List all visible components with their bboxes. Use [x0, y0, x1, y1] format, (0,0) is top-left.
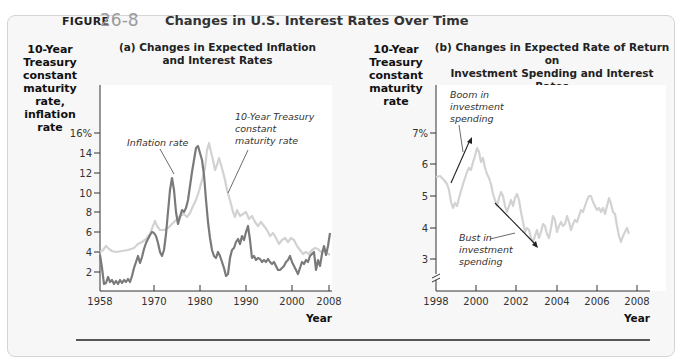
bust-label-line3: spending	[459, 256, 503, 267]
svg-text:7%: 7%	[412, 128, 428, 139]
svg-text:2000: 2000	[279, 296, 304, 307]
panel-a-x-tick-labels: 1958 1970 1980 1990 2000 2008	[87, 296, 341, 307]
treasury-label-line3: maturity rate	[235, 135, 298, 146]
svg-text:2006: 2006	[584, 296, 609, 307]
svg-text:5: 5	[422, 191, 428, 202]
svg-text:2: 2	[86, 267, 92, 278]
boom-label-line2: investment	[450, 101, 505, 112]
svg-text:8: 8	[86, 207, 92, 218]
treasury-label-line2: constant	[235, 123, 278, 134]
svg-text:16%: 16%	[70, 128, 92, 139]
boom-label-line3: spending	[450, 113, 494, 124]
svg-text:1958: 1958	[87, 296, 112, 307]
svg-text:1998: 1998	[423, 296, 448, 307]
treasury-label-line1: 10-Year Treasury	[235, 111, 315, 122]
svg-text:10: 10	[79, 188, 92, 199]
svg-text:2000: 2000	[463, 296, 488, 307]
bust-label-line1: Bust in	[459, 232, 492, 243]
svg-text:1970: 1970	[141, 296, 166, 307]
svg-text:2002: 2002	[503, 296, 528, 307]
inflation-rate-label: Inflation rate	[127, 137, 188, 148]
svg-text:6: 6	[422, 159, 428, 170]
panel-b-x-axis-title: Year	[623, 312, 651, 324]
svg-text:12: 12	[79, 168, 92, 179]
svg-text:2004: 2004	[544, 296, 569, 307]
panel-a-y-tick-labels: 16% 14 12 10 8 6 4 2	[70, 128, 92, 278]
svg-text:1980: 1980	[187, 296, 212, 307]
svg-text:2008: 2008	[624, 296, 649, 307]
boom-label-line1: Boom in	[450, 89, 489, 100]
svg-text:1990: 1990	[233, 296, 258, 307]
bust-label-line2: investment	[459, 244, 514, 255]
svg-text:3: 3	[422, 254, 428, 265]
svg-text:4: 4	[86, 247, 92, 258]
svg-text:2008: 2008	[316, 296, 341, 307]
panel-b-y-tick-labels: 7% 6 5 4 3	[412, 128, 428, 265]
panel-b-x-tick-labels: 1998 2000 2002 2004 2006 2008	[423, 296, 649, 307]
svg-text:14: 14	[79, 148, 92, 159]
svg-text:6: 6	[86, 227, 92, 238]
panel-a-x-axis-title: Year	[305, 312, 333, 324]
svg-text:4: 4	[422, 223, 428, 234]
